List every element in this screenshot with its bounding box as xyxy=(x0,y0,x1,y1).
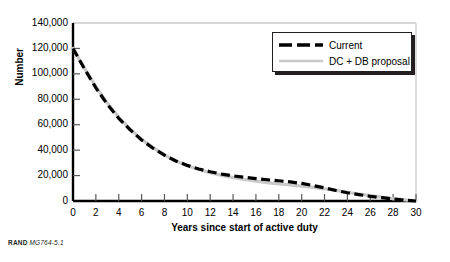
legend-item-dc-db-proposal: DC + DB proposal xyxy=(279,53,410,69)
legend-swatch-current xyxy=(279,39,323,51)
y-axis-tick-label: 100,000 xyxy=(0,67,68,78)
y-axis-tick-label: 20,000 xyxy=(0,169,68,180)
x-axis-title: Years since start of active duty xyxy=(73,222,416,233)
x-axis-tick-label: 30 xyxy=(402,207,430,218)
y-axis-tick-label: 140,000 xyxy=(0,17,68,28)
source-note-code: MG764-5.1 xyxy=(29,239,63,246)
y-axis-tick-label: 80,000 xyxy=(0,93,68,104)
source-note: RAND MG764-5.1 xyxy=(8,239,64,246)
legend-label-dc-db-proposal: DC + DB proposal xyxy=(329,56,410,67)
legend-swatch-dc-db-proposal xyxy=(279,55,323,67)
source-note-prefix: RAND xyxy=(8,239,28,246)
y-axis-tick-label: 120,000 xyxy=(0,42,68,53)
y-axis-tick-label: 40,000 xyxy=(0,144,68,155)
legend-label-current: Current xyxy=(329,40,362,51)
y-axis-tick-label: 60,000 xyxy=(0,118,68,129)
chart-legend: Current DC + DB proposal xyxy=(272,32,412,72)
y-axis-tick-label: 0 xyxy=(0,195,68,206)
chart-figure: Number Years since start of active duty … xyxy=(0,0,450,262)
legend-item-current: Current xyxy=(279,37,362,53)
